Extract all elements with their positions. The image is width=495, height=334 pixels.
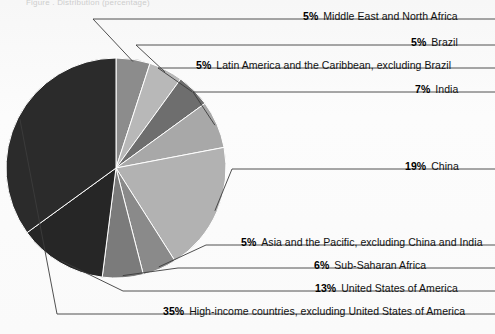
callout-percent: 35% (163, 305, 184, 317)
callout-label-brazil: 5%Brazil (411, 36, 458, 48)
callout-name: Middle East and North Africa (323, 10, 457, 22)
callout-percent: 6% (314, 259, 329, 271)
callout-name: Latin America and the Caribbean, excludi… (216, 59, 451, 71)
callout-label-sub-saharan-africa: 6%Sub-Saharan Africa (314, 259, 426, 271)
callout-label-middle-east-and-north-africa: 5%Middle East and North Africa (303, 10, 458, 22)
callout-percent: 13% (315, 282, 336, 294)
callout-label-latin-america-and-the-caribbean-excluding-brazil: 5%Latin America and the Caribbean, exclu… (196, 59, 451, 71)
callout-label-united-states-of-america: 13%United States of America (315, 282, 458, 294)
callout-percent: 7% (415, 83, 430, 95)
callout-name: Sub-Saharan Africa (334, 259, 426, 271)
callout-percent: 19% (405, 160, 426, 172)
pie-chart-figure: Figure . Distribution (percentage) 5%Mid… (0, 0, 495, 334)
callout-name: China (431, 160, 459, 172)
callout-name: India (435, 83, 458, 95)
callout-percent: 5% (241, 236, 256, 248)
leader-line (215, 169, 495, 211)
callout-name: High-income countries, excluding United … (189, 305, 465, 317)
callout-label-asia-and-the-pacific-excluding-china-and-india: 5%Asia and the Pacific, excluding China … (241, 236, 483, 248)
pie-slices-group (6, 58, 226, 278)
leader-line (193, 92, 495, 125)
callout-label-high-income-countries-excluding-united-states-of-america: 35%High-income countries, excluding Unit… (163, 305, 465, 317)
callout-name: Brazil (431, 36, 458, 48)
leader-line (123, 268, 495, 276)
callout-percent: 5% (196, 59, 211, 71)
callout-name: Asia and the Pacific, excluding China an… (261, 236, 482, 248)
callout-name: United States of America (341, 282, 458, 294)
callout-label-china: 19%China (405, 160, 459, 172)
callout-percent: 5% (411, 36, 426, 48)
callout-percent: 5% (303, 10, 318, 22)
callout-label-india: 7%India (415, 83, 458, 95)
